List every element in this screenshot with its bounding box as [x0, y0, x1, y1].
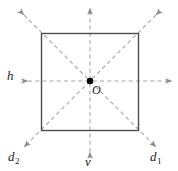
axis-label-d2-subscript: 2: [15, 156, 20, 166]
axis-label-d2: d2: [8, 150, 20, 166]
axis-label-d1-subscript: 1: [157, 156, 162, 166]
axis-label-h: h: [7, 69, 14, 82]
geometry-figure: h v d1 d2 O: [0, 0, 178, 171]
axis-label-d2-base: d: [8, 149, 15, 164]
figure-canvas: [0, 0, 178, 171]
axis-label-v: v: [85, 155, 91, 168]
axis-label-d1-base: d: [150, 149, 157, 164]
origin-label-O: O: [92, 84, 101, 96]
axis-label-d1: d1: [150, 150, 162, 166]
